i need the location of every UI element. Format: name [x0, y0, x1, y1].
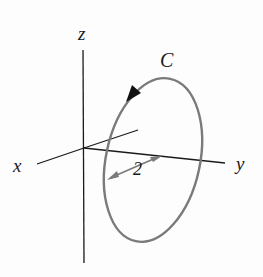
diagram-canvas: z x y C 2 [0, 0, 263, 277]
z-axis [83, 50, 84, 263]
radius-label: 2 [133, 160, 142, 178]
z-axis-label: z [78, 24, 85, 43]
y-axis-label: y [236, 154, 244, 173]
diagram-svg [0, 0, 263, 277]
radius-arrowhead-inner-icon [107, 171, 119, 180]
x-axis-label: x [13, 156, 21, 175]
curve-label: C [160, 50, 173, 70]
radius-arrowhead-outer-icon [150, 156, 162, 162]
orientation-arrow-icon [126, 85, 141, 102]
x-axis [37, 148, 84, 164]
